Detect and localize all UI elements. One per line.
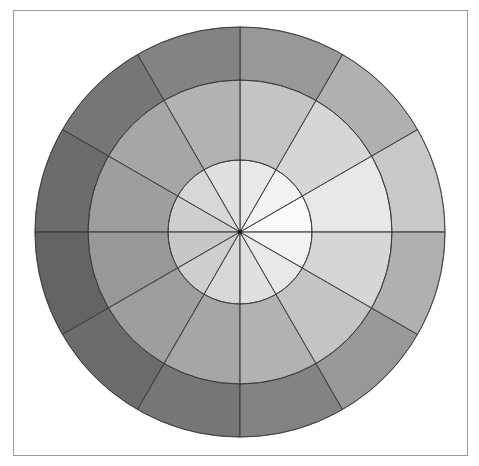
center-point-marker: [238, 230, 242, 234]
figure-root: [0, 0, 479, 466]
polar-sector-chart: [0, 0, 479, 466]
